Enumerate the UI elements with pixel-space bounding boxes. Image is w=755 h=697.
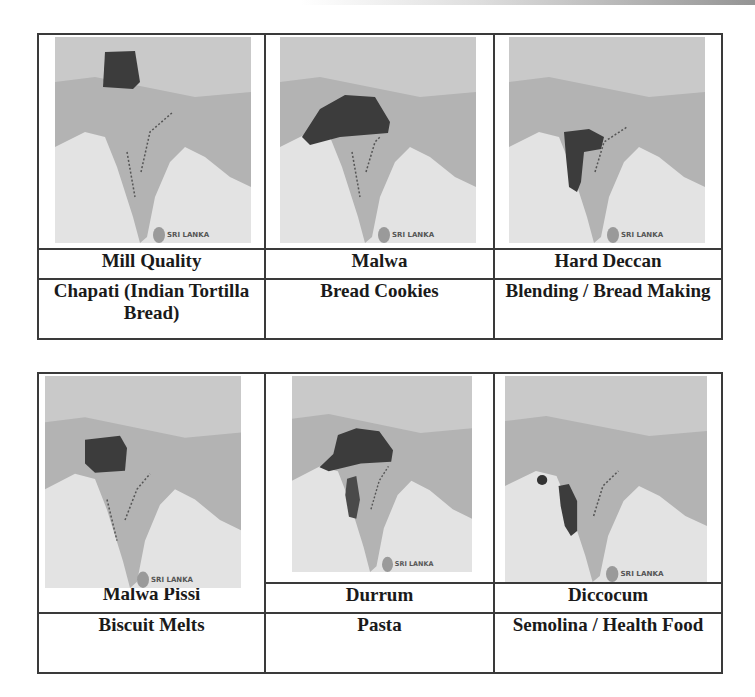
map-cell: SRI LANKA (265, 34, 494, 249)
cropped-heading-remnant (300, 0, 755, 5)
variety-use: Chapati (Indian Tortilla Bread) (38, 279, 265, 339)
variety-use: Blending / Bread Making (494, 279, 722, 339)
map-label: SRI LANKA (621, 231, 664, 239)
india-map-durrum: SRI LANKA (292, 376, 472, 572)
variety-name: Durrum (265, 583, 494, 613)
map-cell: SRI LANKA (494, 373, 722, 583)
india-map-mill-quality: SRI LANKA (55, 37, 251, 243)
map-label: SRI LANKA (392, 231, 435, 239)
map-cell: SRI LANKA (265, 373, 494, 583)
wheat-varieties-table-2: SRI LANKA SRI LANKA (37, 372, 723, 674)
map-cell: SRI LANKA (38, 34, 265, 249)
variety-use: Bread Cookies (265, 279, 494, 339)
india-map-hard-deccan: SRI LANKA (509, 37, 705, 243)
wheat-varieties-table-1: SRI LANKA SRI LANKA (37, 33, 723, 340)
map-label: SRI LANKA (151, 575, 194, 584)
map-image: SRI LANKA (509, 37, 705, 243)
map-row: SRI LANKA SRI LANKA (38, 34, 722, 249)
map-image: SRI LANKA (505, 376, 707, 582)
map-label: SRI LANKA (620, 569, 664, 578)
use-row: Chapati (Indian Tortilla Bread) Bread Co… (38, 279, 722, 339)
variety-use: Biscuit Melts (38, 613, 265, 673)
map-cell: SRI LANKA (38, 373, 265, 583)
india-map-malwa-pissi: SRI LANKA (45, 376, 241, 588)
variety-name: Mill Quality (38, 249, 265, 279)
map-image: SRI LANKA (292, 376, 472, 572)
map-label: SRI LANKA (395, 560, 434, 568)
variety-name: Malwa (265, 249, 494, 279)
variety-name: Hard Deccan (494, 249, 722, 279)
india-map-malwa: SRI LANKA (280, 37, 476, 243)
map-row: SRI LANKA SRI LANKA (38, 373, 722, 583)
map-label: SRI LANKA (167, 231, 210, 239)
variety-name: Diccocum (494, 583, 722, 613)
variety-row: Mill Quality Malwa Hard Deccan (38, 249, 722, 279)
variety-use: Pasta (265, 613, 494, 673)
map-image: SRI LANKA (55, 37, 251, 243)
map-cell: SRI LANKA (494, 34, 722, 249)
map-image: SRI LANKA (280, 37, 476, 243)
india-map-diccocum: SRI LANKA (505, 376, 707, 582)
variety-use: Semolina / Health Food (494, 613, 722, 673)
map-image: SRI LANKA (45, 376, 241, 588)
use-row: Biscuit Melts Pasta Semolina / Health Fo… (38, 613, 722, 673)
